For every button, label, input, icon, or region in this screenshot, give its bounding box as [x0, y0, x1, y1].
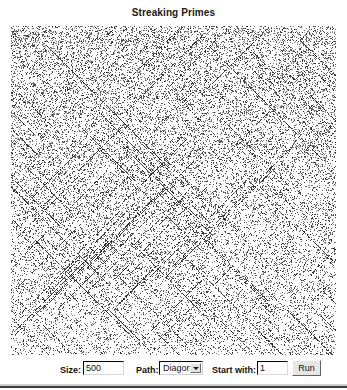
size-input[interactable] [83, 361, 124, 375]
size-label: Size: [60, 364, 81, 376]
start-with-input[interactable] [257, 361, 288, 375]
path-select[interactable]: Diagonal [159, 361, 203, 375]
path-select-value: Diagonal [160, 362, 190, 374]
run-button[interactable]: Run [292, 360, 321, 376]
plot-area [11, 26, 336, 355]
chevron-down-icon[interactable] [190, 363, 201, 373]
application-window: Streaking Primes Size: Path: Diagonal St… [0, 0, 347, 390]
bottom-divider [0, 386, 347, 388]
prime-scatter-canvas[interactable] [11, 26, 336, 355]
controls-toolbar: Size: Path: Diagonal Start with: Run [0, 358, 347, 384]
page-title: Streaking Primes [0, 4, 347, 22]
path-label: Path: [136, 364, 159, 376]
start-with-label: Start with: [212, 364, 256, 376]
